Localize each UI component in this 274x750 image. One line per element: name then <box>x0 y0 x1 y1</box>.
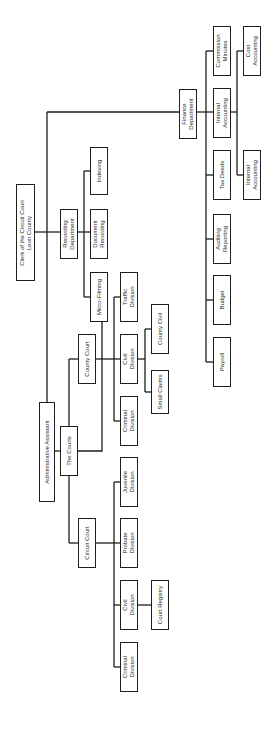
node-clerk: Clerk of the Circuit Court Leon County <box>16 184 35 281</box>
node-indexing: Indexing <box>90 147 108 195</box>
node-micro-filming: Micro-Filming <box>90 272 108 322</box>
node-probate-division: Probate Division <box>120 518 138 568</box>
node-commission-minutes: Commission Minutes <box>213 26 231 76</box>
node-circuit-civil-division: Civil Division <box>120 580 138 630</box>
node-label: Criminal Division <box>122 410 136 432</box>
node-label: Internal Accounting <box>215 98 229 128</box>
node-label: Internal Accounting <box>245 160 259 190</box>
node-label: Criminal Division <box>122 656 136 678</box>
node-label: Document Recording <box>92 220 106 247</box>
node-tax-deeds: Tax Deeds <box>213 150 231 200</box>
node-county-civil-division: Civil Division <box>120 334 138 384</box>
node-label: Commission Minutes <box>215 34 229 67</box>
node-internal-accounting: Internal Accounting <box>213 88 231 138</box>
node-label: Civil Division <box>122 348 136 369</box>
node-label: Court Registry <box>157 586 164 624</box>
node-traffic-division: Traffic Division <box>120 272 138 322</box>
node-label: Indexing <box>96 160 103 183</box>
org-chart: Clerk of the Circuit Court Leon County R… <box>0 0 274 750</box>
node-label: Recording Department <box>62 218 76 249</box>
node-finance-department: Finance Department <box>179 89 197 139</box>
node-label: Small Claims <box>157 374 164 409</box>
node-label: Cost Accounting <box>245 36 259 66</box>
node-county-civil: County Civil <box>151 304 169 354</box>
node-label: Circuit Court <box>84 526 91 559</box>
node-label: County Civil <box>157 313 164 345</box>
node-recording-department: Recording Department <box>60 209 78 259</box>
node-budget: Budget <box>213 275 231 325</box>
node-label: Administrative Assistant <box>44 420 51 483</box>
node-auditing-reporting: Auditing Reporting <box>213 214 231 264</box>
node-label: Budget <box>219 290 226 309</box>
node-internal-accounting-sub: Internal Accounting <box>243 150 261 200</box>
node-label: Tax Deeds <box>219 161 226 189</box>
node-small-claims: Small Claims <box>151 370 169 414</box>
node-circuit-criminal-division: Criminal Division <box>120 642 138 692</box>
node-label: Micro-Filming <box>96 279 103 315</box>
node-label: Finance Department <box>181 98 195 129</box>
node-circuit-court: Circuit Court <box>78 518 96 568</box>
node-label: Probate Division <box>122 532 136 553</box>
node-label: Clerk of the Circuit Court Leon County <box>19 200 33 266</box>
node-juvenile-division: Juvenile Division <box>120 457 138 507</box>
node-label: Civil Division <box>122 594 136 615</box>
node-court-registry: Court Registry <box>151 580 169 630</box>
node-document-recording: Document Recording <box>90 209 108 259</box>
node-label: Juvenile Division <box>122 471 136 493</box>
node-county-criminal-division: Criminal Division <box>120 396 138 446</box>
node-payroll: Payroll <box>213 337 231 387</box>
node-administrative-assistant: Administrative Assistant <box>39 402 55 502</box>
node-label: The Courts <box>66 436 73 466</box>
node-the-courts: The Courts <box>60 426 78 476</box>
node-cost-accounting: Cost Accounting <box>243 26 261 76</box>
node-label: Auditing Reporting <box>215 226 229 252</box>
node-county-court: County Court <box>78 334 96 384</box>
node-label: Payroll <box>219 353 226 371</box>
node-label: Traffic Division <box>122 286 136 307</box>
node-label: County Court <box>84 341 91 376</box>
